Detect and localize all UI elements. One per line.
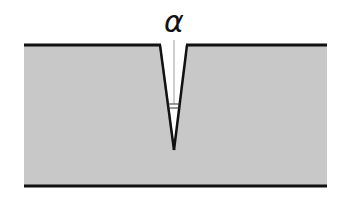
- angle-label: α: [160, 4, 188, 40]
- notch-diagram: α: [0, 0, 343, 200]
- plate-body: [24, 45, 327, 186]
